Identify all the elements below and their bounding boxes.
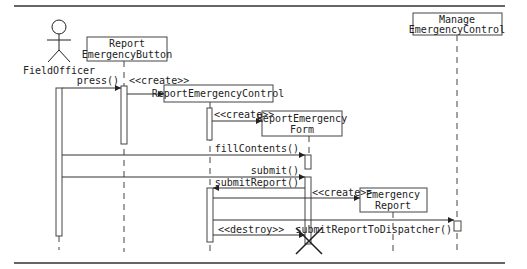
label-submit-report: submitReport()	[215, 177, 299, 188]
object-manage-emergency-control: Manage EmergencyControl	[409, 13, 505, 35]
label-press: press()	[77, 75, 119, 86]
label-fill-contents: fillContents()	[215, 143, 299, 154]
actor-head-icon	[52, 20, 66, 34]
activation-control-2	[207, 188, 213, 242]
object-label-line2: Form	[290, 124, 314, 135]
object-label-line2: EmergencyControl	[409, 24, 505, 35]
activation-field-officer	[56, 88, 62, 236]
label-create-control: <<create>>	[129, 75, 189, 86]
object-label-line1: ReportEmergencyControl	[152, 88, 284, 99]
object-label-line1: Emergency	[366, 189, 420, 200]
activation-manage	[454, 221, 461, 231]
label-destroy: <<destroy>>	[218, 224, 284, 235]
activation-control-1	[207, 108, 212, 140]
label-create-form: <<create>>	[214, 109, 274, 120]
label-create-report: <<create>>	[312, 187, 372, 198]
object-label-line2: Report	[375, 200, 411, 211]
label-submit: submit()	[251, 165, 299, 176]
object-report-emergency-control: ReportEmergencyControl	[152, 85, 284, 102]
object-report-emergency-button: Report EmergencyButton	[82, 37, 172, 61]
object-label-line1: Report	[109, 38, 145, 49]
actor-field-officer: FieldOfficer	[23, 20, 95, 76]
object-label-line2: EmergencyButton	[82, 49, 172, 60]
sequence-diagram: FieldOfficer Report EmergencyButton Repo…	[0, 0, 527, 269]
activation-button	[121, 86, 127, 144]
activation-form-1	[305, 155, 311, 169]
label-submit-to-dispatcher: submitReportToDispatcher()	[295, 224, 452, 235]
